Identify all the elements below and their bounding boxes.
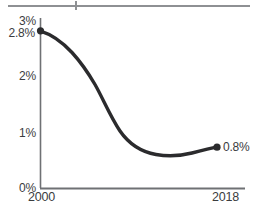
x-tick-label-start: 2000 [28,191,55,204]
y-callout-label-start: 2.8% [0,27,35,39]
y-tick-label-1: 1% [0,127,36,139]
data-point-start [37,27,44,34]
data-line-rate [40,31,217,156]
chart-figure: 3% 2.8% 2% 1% 0% 2000 2018 0.8% [0,0,258,216]
line-chart-plot [0,0,258,216]
chart-svg [0,0,258,216]
clipped-footer-text [6,210,252,216]
x-tick-label-end: 2018 [212,191,239,204]
data-point-end [213,144,220,151]
end-value-callout: 0.8% [223,141,250,153]
y-tick-label-2: 2% [0,70,36,82]
